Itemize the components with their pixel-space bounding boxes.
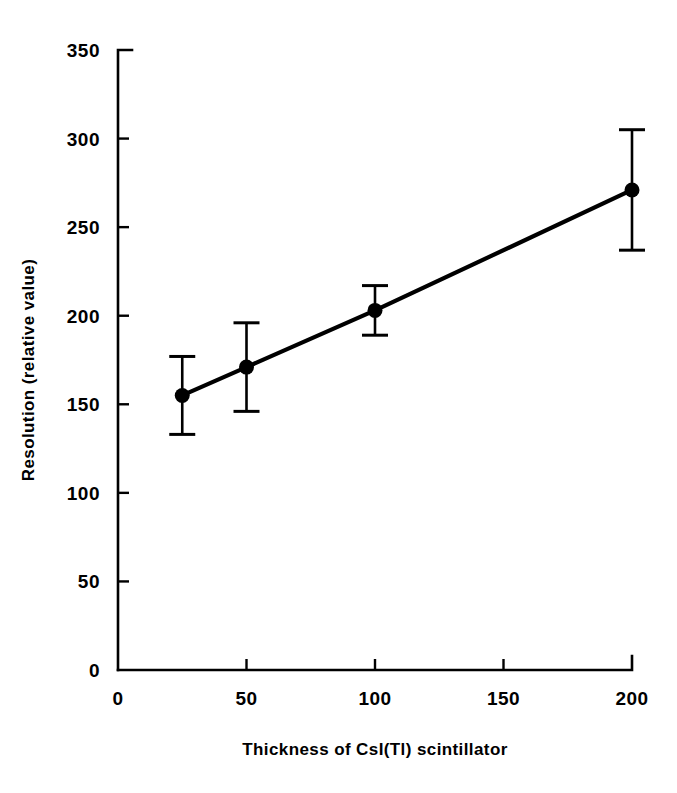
- y-tick-label: 200: [67, 306, 100, 327]
- y-tick-label: 100: [67, 483, 100, 504]
- data-point-marker: [625, 182, 640, 197]
- x-axis-title: Thickness of CsI(Tl) scintillator: [242, 740, 507, 759]
- x-tick-label: 50: [235, 688, 257, 709]
- data-point-marker: [368, 303, 383, 318]
- y-tick-label: 300: [67, 129, 100, 150]
- resolution-vs-thickness-chart: 050100150200250300350 050100150200 Thick…: [0, 0, 677, 793]
- y-axis-line: [118, 50, 132, 670]
- chart-axes: [118, 50, 632, 670]
- y-tick-label: 250: [67, 217, 100, 238]
- data-point-marker: [175, 388, 190, 403]
- x-tick-label: 200: [615, 688, 648, 709]
- y-tick-label: 150: [67, 394, 100, 415]
- x-axis-ticks: [247, 659, 504, 670]
- chart-figure: 050100150200250300350 050100150200 Thick…: [0, 0, 677, 793]
- x-tick-label: 150: [487, 688, 520, 709]
- error-bars: [169, 130, 645, 435]
- y-tick-label: 0: [89, 660, 100, 681]
- x-tick-label: 100: [358, 688, 391, 709]
- data-point-marker: [239, 360, 254, 375]
- y-tick-label: 350: [67, 40, 100, 61]
- y-tick-label: 50: [78, 571, 100, 592]
- y-axis-title: Resolution (relative value): [19, 259, 38, 481]
- x-axis-tick-labels: 050100150200: [112, 688, 648, 709]
- y-axis-ticks: [118, 139, 129, 582]
- y-axis-tick-labels: 050100150200250300350: [67, 40, 100, 681]
- data-point-markers: [175, 182, 640, 402]
- x-tick-label: 0: [112, 688, 123, 709]
